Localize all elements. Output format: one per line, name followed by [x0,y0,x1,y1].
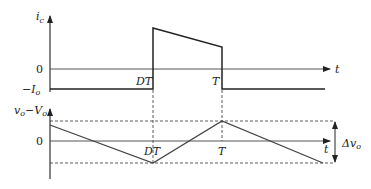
zero-label-top: 0 [36,63,43,76]
t-label-bottom: t [324,143,329,156]
t-label-top: t [335,63,340,76]
dt-label-top: DT [135,75,154,88]
zero-label-bottom: 0 [36,135,43,148]
capacitor-current-waveform [50,28,325,89]
vo-minus-Vo-label: vo−Vo [14,104,47,118]
output-voltage-ripple-waveform [50,121,323,163]
T-label-top: T [212,75,221,88]
top-plot: ic 0 −Io DT T t [22,10,340,97]
converter-waveform-diagram: ic 0 −Io DT T t vo−Vo 0 DT T t Δvo [0,0,371,189]
ic-label: ic [36,10,45,25]
bottom-plot: vo−Vo 0 DT T t Δvo [14,104,361,179]
delta-vo-label: Δvo [341,137,361,151]
neg-io-label: −Io [22,83,41,97]
T-label-bottom: T [218,145,227,158]
dt-label-bottom: DT [143,145,162,158]
